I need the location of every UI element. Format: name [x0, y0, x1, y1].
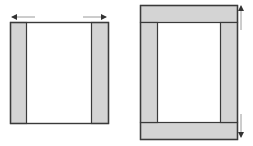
strip-left	[11, 23, 27, 124]
strip-left	[141, 23, 158, 123]
strip-right	[92, 23, 109, 124]
vertical-expansion-figure	[141, 6, 242, 140]
strip-top	[141, 6, 238, 23]
diagram-canvas	[0, 0, 253, 146]
strip-right	[221, 23, 238, 123]
horizontal-expansion-figure	[11, 17, 109, 124]
strip-bottom	[141, 123, 238, 140]
